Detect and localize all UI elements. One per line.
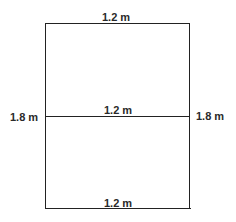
top-edge [45, 23, 190, 24]
top-width-label: 1.2 m [102, 12, 130, 23]
bottom-width-label: 1.2 m [104, 198, 132, 209]
left-height-label: 1.8 m [10, 112, 38, 123]
right-height-label: 1.8 m [196, 111, 224, 122]
middle-width-label: 1.2 m [104, 105, 132, 116]
middle-divider [45, 116, 190, 117]
